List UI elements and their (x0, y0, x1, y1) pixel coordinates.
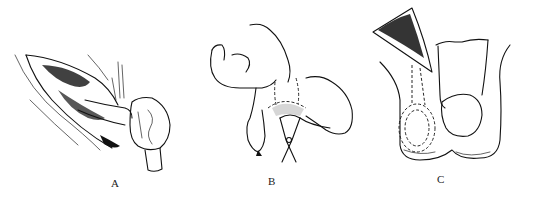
panel-label-a: A (111, 177, 119, 189)
panel-label-c: C (437, 173, 444, 185)
panel-a-drawing (15, 55, 170, 171)
panel-c-drawing (373, 8, 510, 160)
figure-illustration (0, 0, 538, 201)
panel-label-b: B (268, 175, 275, 187)
panel-b-drawing (211, 24, 353, 162)
